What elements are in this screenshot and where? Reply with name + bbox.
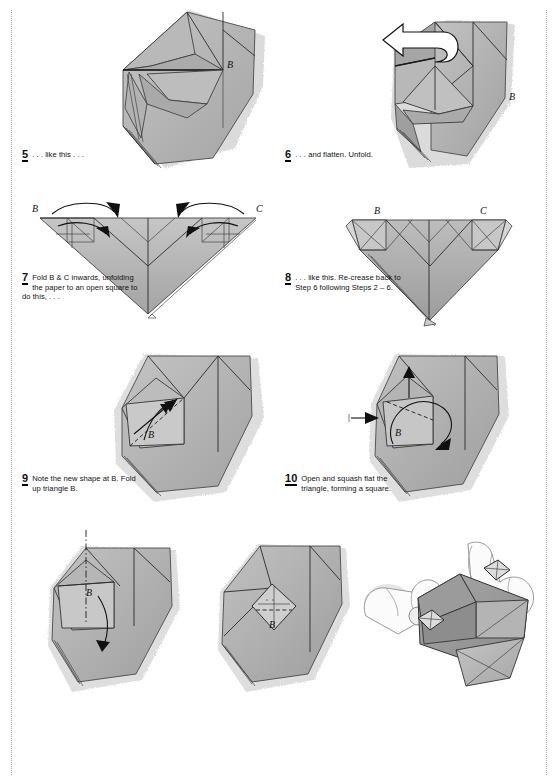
step-7-text: Fold B & C inwards, unfolding the paper … — [22, 273, 142, 302]
step-6: B 6 . . . and flatten. Unfold. — [279, 0, 554, 185]
step-9-number: 9 — [22, 473, 28, 483]
step-5-text: . . . like this . . . — [22, 150, 172, 160]
folded-unit-illustration: B — [95, 8, 280, 173]
point-label-b: B — [374, 205, 380, 216]
step-11: B 11 Swivel the square down and to the r… — [0, 530, 190, 783]
step-10-text: Open and squash flat the triangle, formi… — [285, 474, 407, 493]
step-10-caption: 10 Open and squash flat the triangle, fo… — [285, 474, 407, 493]
point-label-b: B — [148, 429, 154, 440]
step-6-caption: 6 . . . and flatten. Unfold. — [285, 150, 415, 160]
step-13: 13 The Beak complete. Hold as shown and … — [350, 540, 559, 783]
step-10: B 10 Open and squash flat the triangle, … — [279, 352, 554, 530]
step-12-figure: B — [200, 540, 360, 700]
step-8-figure: B C — [334, 198, 524, 326]
step-7-number: 7 — [22, 272, 28, 282]
point-label-b: B — [509, 91, 515, 102]
step-9: B 9 Note the new shape at B. Fold up tri… — [0, 352, 275, 530]
step-9-text: Note the new shape at B. Fold up triangl… — [22, 474, 140, 493]
step-5-number: 5 — [22, 149, 28, 159]
step-7-caption: 7 Fold B & C inwards, unfolding the pape… — [22, 273, 142, 302]
point-label-b: B — [227, 59, 233, 70]
corners-folded-triangle-illustration: B C — [334, 198, 524, 326]
step-10-number: 10 — [285, 473, 297, 483]
step-12: B 12 Pleat the eye. — [190, 540, 350, 783]
point-label-c: C — [480, 205, 487, 216]
step-13-figure — [360, 540, 555, 700]
step-5-caption: 5 . . . like this . . . — [22, 150, 172, 160]
step-7: B C 7 Fold B & C inwards, unfolding the … — [0, 190, 275, 352]
step-8-number: 8 — [285, 272, 291, 282]
step-6-number: 6 — [285, 149, 291, 159]
point-label-b: B — [269, 619, 275, 630]
point-label-b: B — [32, 203, 38, 214]
step-5: B 5 . . . like this . . . — [0, 0, 275, 185]
swivel-square-illustration: B — [24, 530, 189, 715]
step-9-caption: 9 Note the new shape at B. Fold up trian… — [22, 474, 140, 493]
step-7-figure: B C — [28, 196, 268, 321]
completed-beak-in-hands-illustration — [360, 540, 555, 700]
pleat-the-eye-illustration: B — [200, 540, 360, 700]
step-5-figure: B — [95, 8, 280, 173]
point-label-c: C — [256, 203, 263, 214]
point-label-b: B — [86, 587, 92, 598]
point-label-b: B — [395, 427, 401, 438]
step-8-text: . . . like this. Re-crease back to Step … — [285, 273, 405, 292]
open-triangle-illustration: B C — [28, 196, 268, 321]
step-8: B C 8 . . . like this. Re-crease back to… — [279, 190, 554, 352]
step-11-figure: B — [24, 530, 189, 715]
step-8-caption: 8 . . . like this. Re-crease back to Ste… — [285, 273, 405, 292]
step-6-text: . . . and flatten. Unfold. — [285, 150, 415, 160]
